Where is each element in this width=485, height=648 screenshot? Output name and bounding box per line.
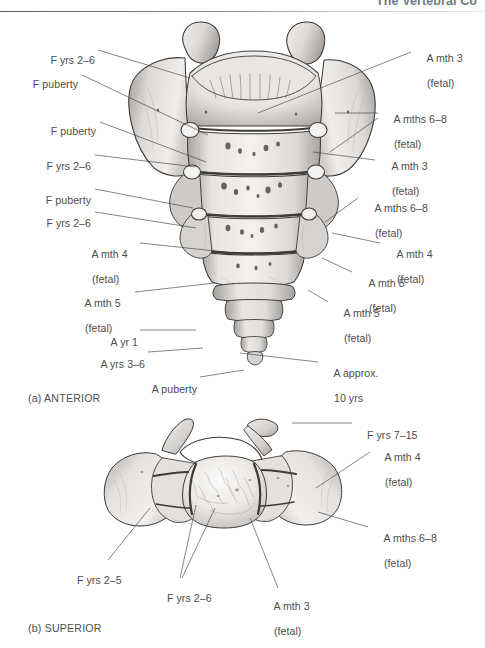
- label-text-line2: (fetal): [385, 476, 412, 488]
- caption-anterior: (a) ANTERIOR: [28, 392, 100, 404]
- label-text-line2: 10 yrs: [334, 392, 363, 404]
- superior-sacrum-illustration: [100, 418, 350, 568]
- label-text-line1: A mth 4: [384, 451, 420, 463]
- label-anterior-left-4: F yrs 2–6: [0, 148, 91, 185]
- label-anterior-left-6: F yrs 2–6: [0, 205, 91, 242]
- label-text: F yrs 2–6: [50, 54, 95, 66]
- label-superior-bottom-1: F yrs 2–5: [65, 562, 122, 599]
- label-text: F puberty: [33, 78, 78, 90]
- label-anterior-left-2: F puberty: [0, 66, 78, 103]
- running-head: The Vertebral Co: [376, 0, 477, 8]
- label-superior-right-2: A mth 4 (fetal): [373, 439, 421, 501]
- label-text: F yrs 2–6: [167, 592, 212, 604]
- label-text-line1: A mth 4: [91, 248, 127, 260]
- label-anterior-left-3: F puberty: [0, 113, 96, 150]
- label-text-line2: (fetal): [344, 332, 371, 344]
- label-anterior-right-1: A mth 3 (fetal): [415, 40, 463, 102]
- label-superior-right-3: A mths 6–8 (fetal): [372, 520, 437, 582]
- label-text: F yrs 2–6: [46, 217, 91, 229]
- header-rule: [0, 11, 485, 12]
- label-text-line2: (fetal): [427, 77, 454, 89]
- label-text-line2: (fetal): [274, 625, 301, 637]
- label-text-line2: (fetal): [92, 273, 119, 285]
- label-text-line1: A mths 6–8: [374, 202, 428, 214]
- label-anterior-right-8: A approx. 10 yrs: [322, 355, 379, 417]
- label-text-line1: A mth 5: [84, 297, 120, 309]
- label-text: F yrs 2–6: [46, 160, 91, 172]
- label-text: A yrs 3–6: [100, 358, 145, 370]
- label-text: F puberty: [51, 125, 96, 137]
- label-text-line1: A mths 6–8: [393, 113, 447, 125]
- label-anterior-left-11: A puberty: [105, 371, 197, 408]
- label-text-line1: A mths 6–8: [383, 532, 437, 544]
- label-text: A puberty: [152, 383, 197, 395]
- label-text-line1: A mth 3: [273, 600, 309, 612]
- label-text-line1: A mth 3: [391, 160, 427, 172]
- label-text-line1: A mth 5: [343, 307, 379, 319]
- label-text-line1: A mth 4: [396, 248, 432, 260]
- caption-superior: (b) SUPERIOR: [28, 622, 102, 634]
- label-superior-bottom-2: F yrs 2–6: [155, 580, 212, 617]
- figure-page: The Vertebral Co: [0, 0, 485, 648]
- label-superior-bottom-3: A mth 3 (fetal): [262, 588, 310, 648]
- label-anterior-right-7: A mth 5 (fetal): [332, 295, 380, 357]
- label-text-line1: A mth 3: [426, 52, 462, 64]
- label-text-line1: A mth 5: [368, 277, 404, 289]
- label-text-line1: A approx.: [333, 367, 378, 379]
- label-text: F yrs 2–5: [77, 574, 122, 586]
- label-text-line2: (fetal): [384, 557, 411, 569]
